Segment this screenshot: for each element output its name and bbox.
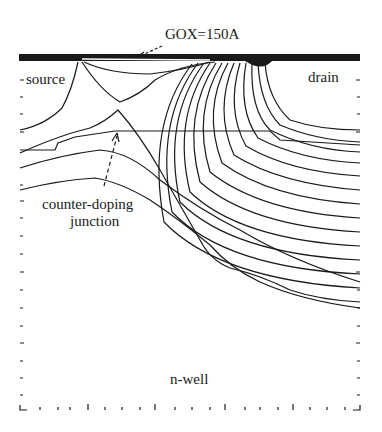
source-label: source [26,72,65,87]
counter-doping-arrow [104,136,117,186]
axis-ticks [20,80,360,410]
drain-contours [159,63,360,288]
counter-doping-label: counter-doping [42,197,133,212]
contour-plot [0,0,382,432]
drain-label: drain [308,70,339,85]
junction-label: junction [70,214,119,229]
nwell-label: n-well [170,372,208,387]
gox-label: GOX=150A [165,27,239,42]
